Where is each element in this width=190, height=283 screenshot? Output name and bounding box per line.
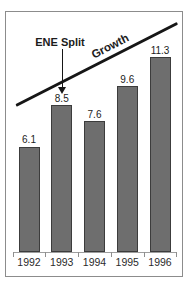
bar-value-label: 8.5 bbox=[47, 93, 77, 104]
bar bbox=[150, 57, 171, 252]
ene-split-label: ENE Split bbox=[25, 36, 95, 48]
bar bbox=[84, 121, 105, 252]
x-axis-category-label: 1996 bbox=[143, 256, 177, 268]
bar-value-label: 9.6 bbox=[112, 74, 142, 85]
bar bbox=[51, 105, 72, 252]
ene-split-arrow-shaft bbox=[62, 49, 64, 89]
bar-value-label: 11.3 bbox=[145, 45, 175, 56]
x-axis-category-label: 1993 bbox=[45, 256, 79, 268]
bar bbox=[19, 147, 40, 253]
x-axis-category-label: 1994 bbox=[78, 256, 112, 268]
bar-value-label: 6.1 bbox=[14, 134, 44, 145]
x-axis-category-label: 1992 bbox=[12, 256, 46, 268]
x-axis-category-label: 1995 bbox=[110, 256, 144, 268]
chart-figure: Growth ENE Split 6.18.57.69.611.3 199219… bbox=[0, 0, 190, 283]
bar bbox=[117, 86, 138, 252]
bar-value-label: 7.6 bbox=[80, 109, 110, 120]
x-axis-line bbox=[13, 252, 177, 253]
